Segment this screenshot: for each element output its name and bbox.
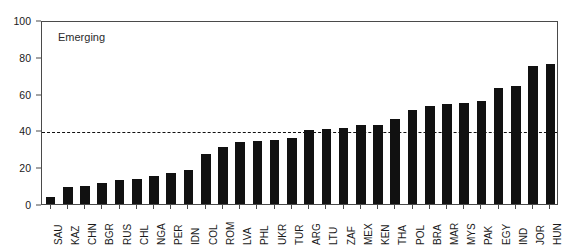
x-tick-label: KAZ — [71, 226, 81, 245]
bar — [80, 186, 90, 204]
x-tick-mark — [532, 205, 533, 209]
bar — [253, 141, 263, 204]
x-tick-label: PAK — [484, 226, 494, 245]
bar — [218, 147, 228, 204]
bars-layer — [42, 22, 557, 204]
x-tick-mark — [343, 205, 344, 209]
x-tick-mark — [308, 205, 309, 209]
x-tick-mark — [153, 205, 154, 209]
bar — [528, 66, 538, 204]
bar — [97, 183, 107, 204]
x-tick-label: PER — [174, 224, 184, 245]
x-tick-mark — [412, 205, 413, 209]
x-tick-label: UKR — [278, 224, 288, 245]
x-tick-mark — [498, 205, 499, 209]
bar — [184, 170, 194, 204]
bar — [149, 176, 159, 204]
x-tick-mark — [170, 205, 171, 209]
x-tick-mark — [119, 205, 120, 209]
bar — [442, 104, 452, 204]
x-tick-label: BGR — [105, 223, 115, 245]
y-axis: 020406080100 — [0, 0, 41, 249]
x-tick-mark — [446, 205, 447, 209]
x-tick-mark — [187, 205, 188, 209]
x-tick-mark — [239, 205, 240, 209]
bar — [166, 173, 176, 204]
x-tick-mark — [377, 205, 378, 209]
x-tick-mark — [256, 205, 257, 209]
x-tick-label: LVA — [243, 228, 253, 245]
y-tick-label: 100 — [13, 16, 31, 27]
x-tick-mark — [291, 205, 292, 209]
bar — [546, 64, 556, 204]
x-tick-label: RUS — [123, 224, 133, 245]
bar — [132, 179, 142, 204]
x-tick-label: ZAF — [347, 226, 357, 245]
bar — [494, 88, 504, 204]
bar — [339, 128, 349, 204]
x-tick-label: ARG — [312, 223, 322, 245]
y-tick-label: 40 — [19, 126, 31, 137]
x-tick-label: COL — [209, 224, 219, 245]
y-tick-label: 20 — [19, 163, 31, 174]
bar — [390, 119, 400, 204]
x-tick-label: KEN — [381, 224, 391, 245]
x-tick-mark — [360, 205, 361, 209]
x-tick-label: THA — [398, 225, 408, 245]
bar — [304, 130, 314, 204]
bar — [63, 187, 73, 204]
x-tick-label: JOR — [536, 225, 546, 245]
bar — [356, 125, 366, 204]
bar — [459, 103, 469, 204]
x-tick-mark — [222, 205, 223, 209]
bar — [511, 86, 521, 204]
x-tick-label: MEX — [364, 223, 374, 245]
plot-area: Emerging — [41, 21, 558, 205]
y-tick-label: 60 — [19, 89, 31, 100]
bar — [115, 180, 125, 204]
x-tick-label: IDN — [191, 228, 201, 245]
x-tick-mark — [463, 205, 464, 209]
x-tick-label: CHN — [88, 223, 98, 245]
bar — [201, 154, 211, 204]
x-tick-mark — [274, 205, 275, 209]
x-tick-label: IND — [519, 228, 529, 245]
bar — [270, 140, 280, 204]
x-tick-label: CHL — [140, 225, 150, 245]
x-tick-mark — [67, 205, 68, 209]
y-tick-label: 0 — [25, 200, 31, 211]
x-tick-mark — [480, 205, 481, 209]
x-tick-label: ROM — [226, 222, 236, 245]
y-tick-label: 80 — [19, 53, 31, 64]
bar — [287, 138, 297, 204]
x-tick-mark — [136, 205, 137, 209]
x-tick-label: HUN — [553, 223, 563, 245]
x-tick-mark — [84, 205, 85, 209]
x-tick-mark — [549, 205, 550, 209]
x-tick-label: TUR — [295, 224, 305, 245]
x-tick-mark — [325, 205, 326, 209]
x-tick-mark — [101, 205, 102, 209]
bar — [408, 110, 418, 204]
bar — [477, 101, 487, 204]
x-tick-label: EGY — [502, 224, 512, 245]
bar — [322, 129, 332, 204]
x-tick-label: PHL — [260, 226, 270, 245]
x-tick-mark — [429, 205, 430, 209]
x-tick-label: MYS — [467, 223, 477, 245]
x-tick-label: SAU — [54, 224, 64, 245]
x-tick-label: LTU — [329, 227, 339, 245]
x-tick-label: BRA — [433, 224, 443, 245]
x-tick-mark — [205, 205, 206, 209]
x-tick-label: NGA — [157, 223, 167, 245]
bar — [235, 142, 245, 204]
x-tick-mark — [515, 205, 516, 209]
bar — [425, 106, 435, 204]
x-tick-label: POL — [416, 225, 426, 245]
chart-figure: 020406080100 Emerging SAUKAZCHNBGRRUSCHL… — [0, 0, 573, 249]
bar — [373, 125, 383, 204]
x-tick-mark — [50, 205, 51, 209]
x-tick-mark — [394, 205, 395, 209]
x-tick-label: MAR — [450, 223, 460, 245]
x-axis: SAUKAZCHNBGRRUSCHLNGAPERIDNCOLROMLVAPHLU… — [41, 205, 558, 249]
